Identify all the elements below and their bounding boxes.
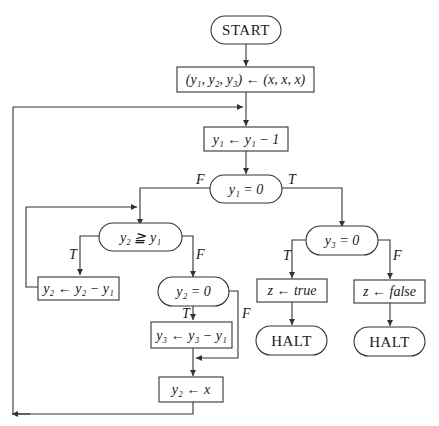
node-test-y2-zero-label: y₂ = 0 <box>174 284 211 299</box>
node-test-y2-zero: y₂ = 0 <box>158 277 229 306</box>
node-sub-y2-label: y₂ ← y₂ − y₁ <box>41 281 114 296</box>
edge-y2-ge-true <box>80 236 99 275</box>
node-test-y1-zero-label: y₁ = 0 <box>227 182 264 197</box>
label-y3-zero-false: F <box>392 248 402 263</box>
node-test-y3-zero: y₃ = 0 <box>306 226 378 255</box>
node-set-true: z ← true <box>257 279 327 302</box>
node-reset-y2-label: y₂ ← x <box>170 382 211 397</box>
flowchart: F T T F T F T F START (y₁, y₂, y₃) ← (x,… <box>0 0 439 426</box>
node-set-true-prefix: z ← <box>266 283 293 298</box>
node-sub-y2: y₂ ← y₂ − y₁ <box>38 277 119 300</box>
node-set-false-label: z ← false <box>362 284 416 299</box>
node-test-y2-ge-y1: y₂ ≧ y₁ <box>99 223 182 251</box>
label-y2-ge-false: F <box>195 247 205 262</box>
label-y3-zero-true: T <box>283 248 292 263</box>
node-init-label: (y₁, y₂, y₃) ← (x, x, x) <box>186 72 306 88</box>
label-y2-zero-false: F <box>241 306 251 321</box>
node-dec-y1: y₁ ← y₁ − 1 <box>204 127 288 151</box>
label-y1-zero-false: F <box>195 172 205 187</box>
node-test-y3-zero-label: y₃ = 0 <box>323 233 360 248</box>
edge-y2-ge-false <box>182 236 193 277</box>
node-sub-y3: y₃ ← y₃ − y₁ <box>151 322 232 348</box>
node-set-false-value: false <box>390 284 416 299</box>
edge-y3-zero-true <box>292 240 306 278</box>
node-set-true-value: true <box>294 283 317 298</box>
node-test-y2-ge-y1-label: y₂ ≧ y₁ <box>118 230 161 245</box>
node-dec-y1-label: y₁ ← y₁ − 1 <box>211 132 280 147</box>
label-y2-zero-true: T <box>182 306 191 321</box>
edge-y3-zero-false <box>378 240 390 279</box>
node-set-false: z ← false <box>354 280 425 303</box>
node-sub-y3-label: y₃ ← y₃ − y₁ <box>154 328 227 343</box>
node-start-label: START <box>222 22 270 38</box>
node-start: START <box>211 16 281 44</box>
edge-y1-zero-false <box>140 188 210 225</box>
edge-y1-zero-true <box>282 188 342 227</box>
label-y1-zero-true: T <box>288 172 297 187</box>
node-set-true-label: z ← true <box>266 283 316 298</box>
node-test-y1-zero: y₁ = 0 <box>210 175 282 203</box>
node-reset-y2: y₂ ← x <box>159 377 223 402</box>
node-init: (y₁, y₂, y₃) ← (x, x, x) <box>177 67 314 92</box>
node-halt-true: HALT <box>256 326 327 355</box>
node-halt-false: HALT <box>354 327 425 356</box>
node-set-false-prefix: z ← <box>362 284 389 299</box>
node-halt-false-label: HALT <box>369 334 410 350</box>
edge-reset-y2-loop <box>13 107 193 414</box>
label-y2-ge-true: T <box>69 247 78 262</box>
node-halt-true-label: HALT <box>271 333 312 349</box>
